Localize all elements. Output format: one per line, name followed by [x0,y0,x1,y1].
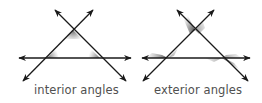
exterior-angles-diagram [142,10,250,81]
ascending-line-arrow [143,10,214,81]
exterior-angles-label: exterior angles [154,83,242,97]
descending-line-arrow [55,10,126,81]
interior-angles-label: interior angles [34,83,119,97]
exterior-angle-left-shade-2 [168,48,178,58]
ascending-line-arrow [23,10,93,81]
interior-angles-diagram [19,10,131,81]
descending-line-arrow [177,10,248,81]
exterior-angle-left-shade [145,53,168,58]
